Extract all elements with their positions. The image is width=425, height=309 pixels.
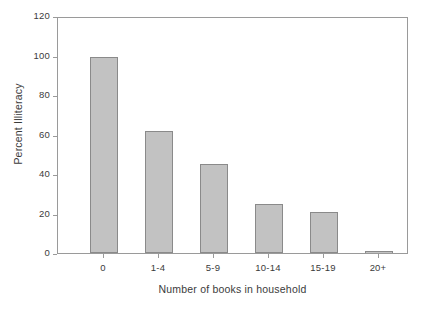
x-tick-label: 10-14: [238, 262, 298, 274]
y-tick-label: 40: [39, 168, 50, 180]
bar-20-plus: [365, 251, 393, 253]
bar-1-4: [145, 131, 173, 253]
x-tick-label: 20+: [348, 262, 408, 274]
x-tick-mark: [378, 254, 379, 258]
y-axis-title: Percent Illiteracy: [12, 54, 24, 194]
y-axis: 0 20 40 60 80 100 120: [0, 0, 57, 309]
x-tick-mark: [158, 254, 159, 258]
x-tick-mark: [103, 254, 104, 258]
plot-area: [58, 18, 407, 253]
bar-10-14: [255, 204, 283, 253]
x-axis-title: Number of books in household: [57, 283, 408, 295]
y-axis-tick: 20: [0, 215, 57, 216]
bar-0: [90, 57, 118, 253]
y-tick-label: 100: [34, 50, 50, 62]
y-tick-label: 80: [39, 89, 50, 101]
y-axis-tick: 100: [0, 57, 57, 58]
x-tick-mark: [213, 254, 214, 258]
x-tick-mark: [268, 254, 269, 258]
x-tick-label: 5-9: [183, 262, 243, 274]
y-tick-label: 0: [45, 247, 50, 259]
x-tick-label: 1-4: [128, 262, 188, 274]
y-tick-label: 20: [39, 208, 50, 220]
plot-frame: [57, 17, 408, 254]
y-axis-tick: 60: [0, 136, 57, 137]
y-axis-tick: 80: [0, 96, 57, 97]
y-axis-tick: 0: [0, 254, 57, 255]
bar-chart-figure: 0 20 40 60 80 100 120 Percent Illiteracy: [0, 0, 425, 309]
y-tick-label: 60: [39, 129, 50, 141]
bar-5-9: [200, 164, 228, 253]
bar-15-19: [310, 212, 338, 253]
x-tick-label: 15-19: [293, 262, 353, 274]
y-axis-tick: 40: [0, 175, 57, 176]
y-tick-label: 120: [34, 10, 50, 22]
y-axis-tick: 120: [0, 17, 57, 18]
x-tick-mark: [323, 254, 324, 258]
x-tick-label: 0: [73, 262, 133, 274]
